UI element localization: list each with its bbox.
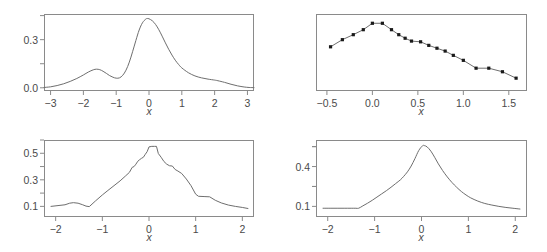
x-tick-label-bottom-right: −2 [322, 224, 334, 235]
plot-canvas-bottom-right [0, 0, 547, 252]
y-tick-label-bottom-right: 0.4 [284, 161, 310, 172]
figure-container: −3−2−101230.00.3 x −0.50.00.51.01.5 x −2… [0, 0, 547, 252]
x-tick-label-bottom-right: 1 [465, 224, 471, 235]
data-curve-bottom-right [323, 145, 520, 209]
x-tick-label-bottom-right: −1 [369, 224, 381, 235]
y-tick-label-bottom-right: 0.1 [284, 201, 310, 212]
x-tick-label-bottom-right: 2 [512, 224, 518, 235]
x-axis-label-bottom-right: x [418, 232, 423, 243]
